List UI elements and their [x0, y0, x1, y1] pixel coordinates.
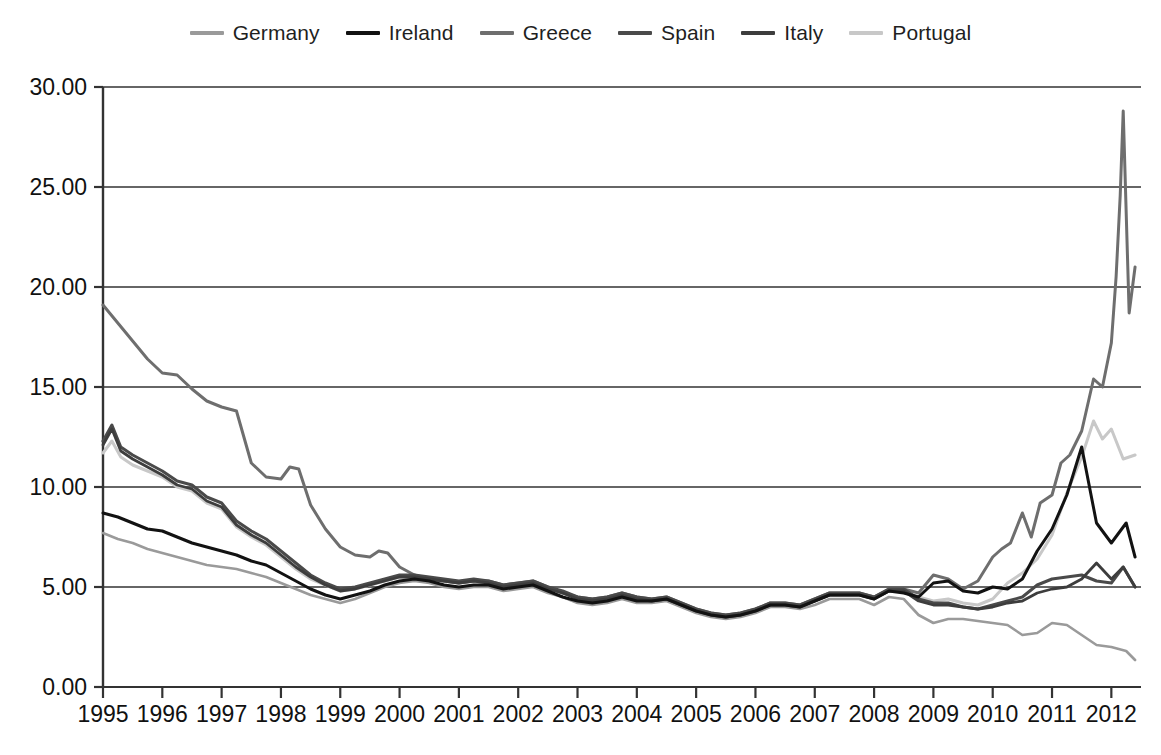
plot-area	[0, 0, 1161, 755]
y-axis-tick-label: 10.00	[1, 476, 87, 499]
y-axis-tick-label: 15.00	[1, 376, 87, 399]
line-chart-svg	[0, 0, 1161, 755]
y-axis-tick-label: 25.00	[1, 176, 87, 199]
series-line-italy	[103, 429, 1135, 617]
y-axis-tick-label: 5.00	[1, 576, 87, 599]
x-axis-tick-label: 2012	[1074, 703, 1148, 726]
chart-root: GermanyIrelandGreeceSpainItalyPortugal 0…	[0, 0, 1161, 755]
y-axis-tick-label: 30.00	[1, 76, 87, 99]
y-axis-tick-label: 0.00	[1, 676, 87, 699]
y-axis-tick-label: 20.00	[1, 276, 87, 299]
series-line-ireland	[103, 447, 1135, 617]
